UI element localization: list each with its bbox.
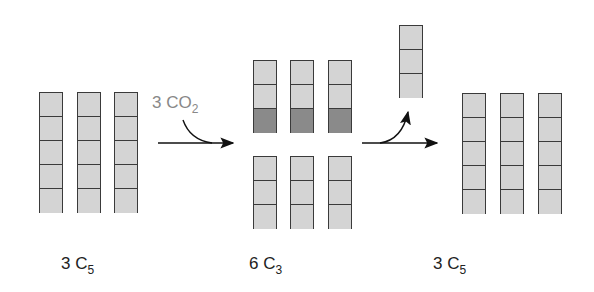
c5-column-regenerated xyxy=(538,93,562,214)
c5-column xyxy=(39,92,63,213)
co2-input-arrow xyxy=(183,120,212,143)
stage-label-end: 3 C5 xyxy=(433,254,466,277)
co2-input-label: 3 CO2 xyxy=(152,93,198,116)
c5-column-regenerated xyxy=(500,93,524,214)
c3-column-carboxylated xyxy=(328,60,352,133)
stage-label-start: 3 C5 xyxy=(61,254,94,277)
released-c3-column xyxy=(399,25,423,98)
stage-label-middle: 6 C3 xyxy=(249,254,282,277)
calvin-cycle-diagram: 3 CO2 3 C5 6 C3 3 C5 xyxy=(0,0,594,292)
c3-column-carboxylated xyxy=(290,60,314,133)
output-arrow xyxy=(380,112,408,143)
c3-column xyxy=(290,156,314,229)
c3-column-carboxylated xyxy=(253,60,277,133)
c5-column xyxy=(77,92,101,213)
c3-column xyxy=(253,156,277,229)
c5-column xyxy=(114,92,138,213)
c3-column xyxy=(328,156,352,229)
c5-column-regenerated xyxy=(462,93,486,214)
